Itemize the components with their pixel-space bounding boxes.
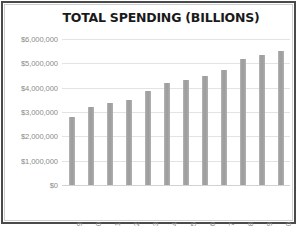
y-axis-tick-label: $2,000,000 (6, 132, 58, 141)
chart-screenshot: TOTAL SPENDING (BILLIONS) $0$1,000,000$2… (0, 0, 298, 226)
gridline (62, 185, 290, 186)
bar (88, 107, 94, 185)
plot-area (62, 39, 290, 185)
x-axis-tick-label: 2013 (151, 222, 160, 226)
x-axis-tick-label: 2014 (170, 222, 179, 226)
bar (126, 100, 132, 185)
x-axis-labels: 2009201020112012201320142015201620172018… (62, 188, 290, 224)
y-axis-tick-label: $6,000,000 (6, 35, 58, 44)
x-axis-tick-label: 2019 (265, 222, 274, 226)
bar (202, 76, 208, 185)
bar (107, 103, 113, 185)
x-axis-tick-label: 2009 (75, 222, 84, 226)
x-axis-tick-label: 2017 (227, 222, 236, 226)
y-axis-labels: $0$1,000,000$2,000,000$3,000,000$4,000,0… (6, 0, 58, 226)
bar (240, 59, 246, 185)
y-axis-tick-label: $5,000,000 (6, 59, 58, 68)
x-axis-tick-label: 2010 (94, 222, 103, 226)
x-axis-tick-label: 2012 (132, 222, 141, 226)
x-axis-tick-label: 2015 (189, 222, 198, 226)
y-axis-tick-label: $4,000,000 (6, 83, 58, 92)
bar (259, 55, 265, 185)
y-axis-tick-label: $0 (6, 181, 58, 190)
bar (164, 83, 170, 185)
bar (183, 80, 189, 185)
bar-series (62, 39, 290, 185)
y-axis-tick-label: $3,000,000 (6, 108, 58, 117)
x-axis-tick-label: 2016 (208, 222, 217, 226)
bar (221, 70, 227, 185)
y-axis-tick-label: $1,000,000 (6, 156, 58, 165)
bar (69, 117, 75, 185)
x-axis-tick-label: 2018 (246, 222, 255, 226)
x-axis-tick-label: 2020 (284, 222, 293, 226)
bar (278, 51, 284, 185)
bar (145, 91, 151, 185)
x-axis-tick-label: 2011 (113, 222, 122, 226)
